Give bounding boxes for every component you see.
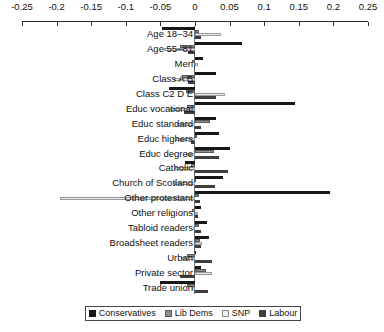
- chart-row: Educ highers: [0, 130, 384, 145]
- category-label: Private sector: [35, 266, 195, 277]
- chart-row: Men: [0, 56, 384, 71]
- bar-conservatives: [195, 132, 219, 135]
- bar-conservatives: [195, 191, 330, 194]
- bar-conservatives: [195, 251, 196, 254]
- bar-conservatives: [195, 42, 242, 45]
- x-tick-label: -0.15: [80, 2, 102, 12]
- chart-row: Class A B: [0, 71, 384, 86]
- chart-row: Catholic: [0, 160, 384, 175]
- x-tick-label: -0.05: [150, 2, 172, 12]
- bar-labour: [195, 36, 201, 39]
- x-tick-label: 0: [192, 2, 197, 12]
- bar-lib-dems: [195, 194, 199, 197]
- legend-item-labour: Labour: [259, 309, 297, 318]
- x-tick-label: 0.15: [290, 2, 309, 12]
- chart-row: Urban: [0, 249, 384, 264]
- category-label: Other religions: [35, 207, 195, 218]
- bar-labour: [195, 290, 208, 293]
- legend-swatch-icon-lib-dems: [165, 310, 172, 317]
- legend-swatch-icon-conservatives: [89, 310, 96, 317]
- bar-lib-dems: [195, 224, 199, 227]
- bar-conservatives: [195, 72, 216, 75]
- horizontal-bar-chart: -0.25-0.2-0.15-0.1-0.0500.050.10.150.20.…: [0, 0, 384, 332]
- bar-labour: [195, 245, 201, 248]
- chart-row: Educ standard: [0, 115, 384, 130]
- bar-lib-dems: [195, 120, 210, 123]
- legend-swatch-icon-snp: [222, 310, 229, 317]
- bar-conservatives: [195, 206, 201, 209]
- plot-area: Age 18–34Age 55–81MenClass A BClass C2 D…: [0, 26, 384, 294]
- chart-row: Educ vocational: [0, 100, 384, 115]
- category-label: Other protestant: [35, 192, 195, 203]
- category-label: Educ standard: [35, 117, 195, 128]
- chart-row: Other protestant: [0, 190, 384, 205]
- legend-item-lib-dems: Lib Dems: [165, 309, 213, 318]
- legend-item-conservatives: Conservatives: [89, 309, 156, 318]
- chart-row: Broadsheet readers: [0, 234, 384, 249]
- category-label: Tabloid readers: [35, 221, 195, 232]
- bar-snp: [195, 272, 212, 275]
- category-label: Educ degree: [35, 147, 195, 158]
- category-label: Trade union: [35, 281, 195, 292]
- x-tick-label: 0.25: [359, 2, 378, 12]
- bar-snp: [195, 63, 198, 66]
- bar-labour: [195, 156, 219, 159]
- category-label: Educ highers: [35, 132, 195, 143]
- category-label: Church of Scotland: [35, 177, 195, 188]
- bar-labour: [195, 260, 212, 263]
- legend-label-snp: SNP: [232, 309, 251, 318]
- x-tick-label: 0.2: [327, 2, 340, 12]
- category-label: Men: [35, 58, 195, 69]
- chart-row: Educ degree: [0, 145, 384, 160]
- category-label: Age 18–34: [35, 28, 195, 39]
- x-tick-label: -0.25: [11, 2, 33, 12]
- category-label: Educ vocational: [35, 102, 195, 113]
- bar-lib-dems: [195, 150, 214, 153]
- category-label: Urban: [35, 251, 195, 262]
- chart-row: Class C2 D E: [0, 86, 384, 101]
- x-tick-label: -0.2: [48, 2, 64, 12]
- chart-row: Trade union: [0, 279, 384, 294]
- category-label: Class A B: [35, 73, 195, 84]
- bar-lib-dems: [195, 135, 197, 138]
- category-label: Class C2 D E: [35, 87, 195, 98]
- legend-swatch-icon-labour: [259, 310, 266, 317]
- bar-labour: [195, 200, 200, 203]
- category-label: Catholic: [35, 162, 195, 173]
- chart-row: Tabloid readers: [0, 220, 384, 235]
- legend-label-labour: Labour: [269, 309, 297, 318]
- chart-legend: Conservatives Lib Dems SNP Labour: [85, 306, 301, 321]
- bar-conservatives: [195, 176, 223, 179]
- legend-label-conservatives: Conservatives: [99, 309, 156, 318]
- x-tick-label: 0.1: [258, 2, 271, 12]
- chart-row: Age 55–81: [0, 41, 384, 56]
- x-axis: -0.25-0.2-0.15-0.1-0.0500.050.10.150.20.…: [0, 0, 384, 24]
- bar-labour: [195, 170, 228, 173]
- bar-conservatives: [195, 57, 203, 60]
- bar-labour: [195, 185, 215, 188]
- x-tick-label: 0.05: [220, 2, 239, 12]
- x-tick-label: -0.1: [118, 2, 134, 12]
- bar-conservatives: [195, 102, 295, 105]
- bar-labour: [195, 126, 201, 129]
- bar-labour: [195, 215, 198, 218]
- category-label: Age 55–81: [35, 43, 195, 54]
- chart-row: Other religions: [0, 205, 384, 220]
- bar-labour: [195, 96, 216, 99]
- bar-labour: [195, 230, 201, 233]
- chart-row: Age 18–34: [0, 26, 384, 41]
- chart-row: Church of Scotland: [0, 175, 384, 190]
- legend-label-lib-dems: Lib Dems: [175, 309, 213, 318]
- legend-item-snp: SNP: [222, 309, 251, 318]
- chart-row: Private sector: [0, 264, 384, 279]
- category-label: Broadsheet readers: [35, 236, 195, 247]
